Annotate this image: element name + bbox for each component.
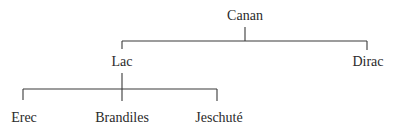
node-jeschute: Jeschuté (195, 111, 242, 125)
node-dirac: Dirac (352, 55, 383, 69)
genealogy-tree: Canan Lac Dirac Erec Brandiles Jeschuté (0, 0, 396, 131)
node-brandiles: Brandiles (95, 111, 149, 125)
node-lac: Lac (112, 55, 133, 69)
node-canan: Canan (227, 9, 263, 23)
node-erec: Erec (11, 111, 37, 125)
